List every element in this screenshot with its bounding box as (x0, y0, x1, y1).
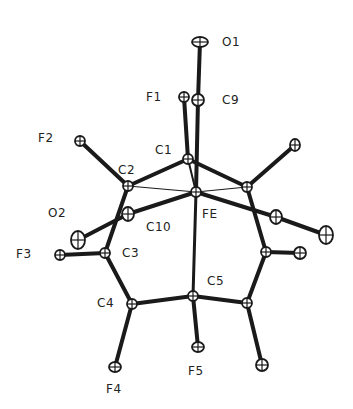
atom-label-c3: C3 (122, 246, 139, 260)
bond-c2b-c3b (247, 187, 266, 252)
atom-label-c1: C1 (155, 143, 172, 157)
atom-label-c2: C2 (118, 163, 135, 177)
atom-o2b (319, 226, 333, 244)
atom-c9 (192, 94, 204, 106)
atom-f3b (294, 247, 306, 259)
atom-c2 (123, 181, 133, 191)
atom-f1 (179, 92, 189, 102)
molecule-diagram: O1C9F1C1C2F2FEC10O2C3F3C4F4C5F5 (0, 0, 353, 409)
bond-c3-f3 (60, 253, 105, 255)
atom-c10b (270, 210, 282, 224)
atom-c5 (188, 291, 198, 301)
atom-label-f3: F3 (16, 247, 32, 261)
atom-label-f1: F1 (146, 90, 162, 104)
atom-f3 (55, 250, 65, 260)
bond-c2b-fe (196, 187, 247, 192)
atom-label-c10: C10 (146, 220, 171, 234)
bond-c4-c5 (132, 296, 193, 304)
atom-f5 (192, 342, 204, 352)
atom-c3 (100, 248, 110, 258)
bond-c4-f4 (115, 304, 132, 367)
atom-label-fe: FE (202, 207, 217, 221)
bond-c10-o2 (78, 214, 128, 240)
bond-c5-f5 (193, 296, 198, 347)
bond-o1-c9 (198, 42, 200, 100)
bond-c1-c2 (128, 159, 188, 186)
bond-c2b-f2b (247, 145, 295, 187)
atom-f2b (290, 139, 300, 151)
atom-label-f2: F2 (38, 131, 54, 145)
atom-c10 (122, 207, 134, 221)
ortep-structure (0, 0, 353, 409)
bond-c9-fe (196, 100, 198, 192)
atom-label-c5: C5 (207, 274, 224, 288)
atom-c4 (127, 299, 137, 309)
bond-c2-fe (128, 186, 196, 192)
atom-label-f5: F5 (188, 364, 204, 378)
atom-label-o1: O1 (222, 35, 240, 49)
atom-o1 (192, 37, 208, 47)
atom-c4b (242, 298, 252, 308)
atom-fe (191, 187, 201, 197)
atom-label-o2: O2 (48, 206, 66, 220)
bond-c5-c4b (193, 296, 247, 303)
bond-c4b-f4b (247, 303, 262, 365)
atom-c3b (261, 247, 271, 257)
atom-label-f4: F4 (106, 382, 122, 396)
bond-c3b-c4b (247, 252, 266, 303)
atom-c2b (242, 182, 252, 192)
bond-fe-c10 (128, 192, 196, 214)
bond-fe-c5 (193, 192, 196, 296)
atom-label-c4: C4 (97, 296, 114, 310)
atom-f4 (109, 362, 121, 372)
bond-f1-c1 (184, 97, 188, 159)
atom-o2 (71, 231, 85, 249)
atom-label-c9: C9 (222, 93, 239, 107)
atom-f4b (256, 359, 268, 371)
atom-f2 (75, 136, 85, 146)
atom-c1 (183, 154, 193, 164)
